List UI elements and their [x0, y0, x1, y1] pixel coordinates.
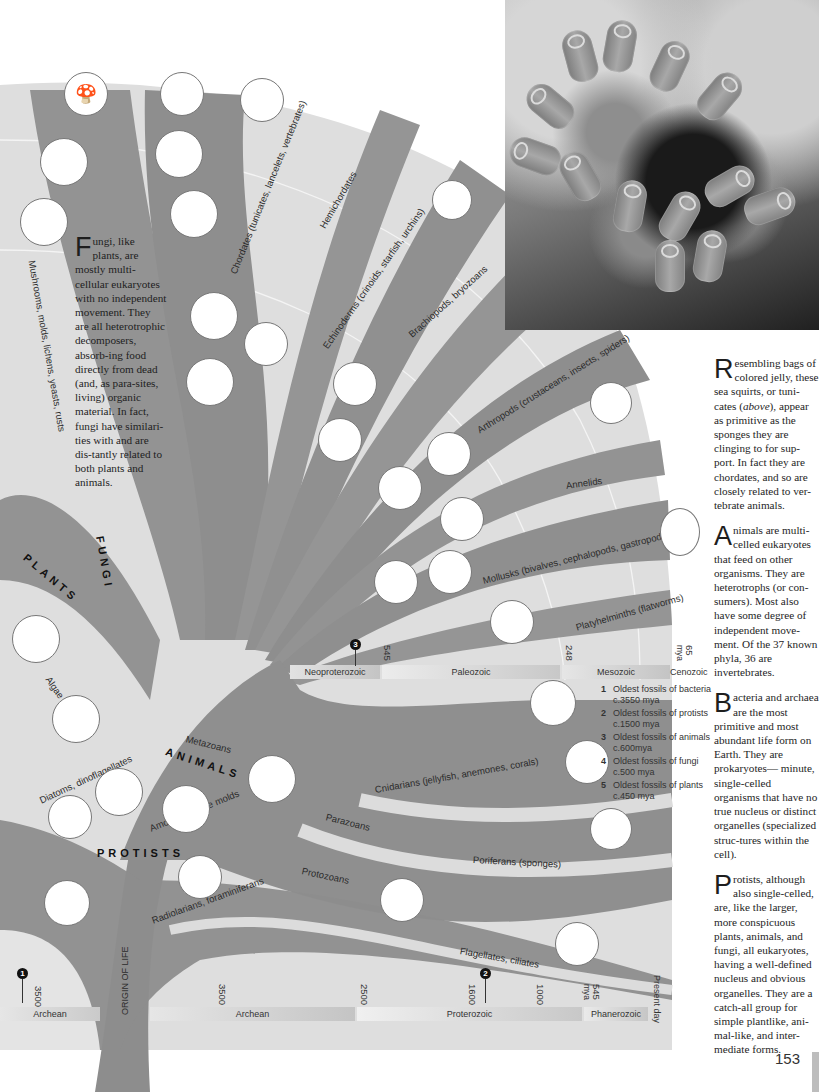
legend-item: 4Oldest fossils of fungi c.500 mya: [601, 756, 721, 777]
fish-illustration: [170, 190, 218, 238]
page-edge-tab: [812, 1052, 819, 1092]
squid-illustration: [660, 508, 700, 556]
tick-mya-upper: mya: [675, 645, 685, 661]
whale-illustration: [240, 78, 284, 122]
nautilus-illustration: [428, 550, 472, 594]
jellyfish-illustration: [530, 680, 576, 726]
marker-3-line: [355, 650, 356, 666]
era-paleozoic: Paleozoic: [382, 665, 560, 679]
earthworm-illustration: [440, 497, 484, 541]
right-column: Resembling bags of colored jelly, these …: [714, 356, 819, 1057]
worm-illustration: [244, 322, 288, 366]
mold-illustration: [40, 138, 88, 186]
tick-mya-lower: mya: [582, 984, 592, 1000]
tick-2500: 2500: [359, 984, 370, 1005]
legend-item: 3Oldest fossils of animals c.600mya: [601, 732, 721, 753]
kingdom-protists-label: PROTISTS: [97, 847, 184, 859]
tunicate-photo: [505, 0, 819, 330]
animals-paragraph: Animals are multi-celled eukaryotes that…: [714, 523, 819, 679]
trilobite-illustration: [378, 466, 422, 510]
tick-1000: 1000: [535, 984, 546, 1005]
marker-3: 3: [350, 639, 361, 650]
lancelet-illustration: [190, 292, 238, 340]
frog-illustration: [155, 130, 203, 178]
tick-3500: 3500: [217, 984, 228, 1005]
tick-3500-left: 3500: [33, 986, 44, 1007]
legend-item: 2Oldest fossils of protists c.1500 mya: [601, 708, 721, 729]
era-mesozoic: Mesozoic: [562, 665, 670, 679]
clam-illustration: [374, 560, 418, 604]
tunicate-illustration: [186, 358, 234, 406]
ediacaran-illustration: [248, 755, 296, 803]
legend-item: 5Oldest fossils of plants c.450 mya: [601, 780, 721, 801]
marker-2-line: [485, 979, 486, 1003]
tick-248: 248: [564, 645, 575, 661]
crab-illustration: [590, 382, 632, 424]
protists-paragraph: Protists, although also single-celled, a…: [714, 872, 819, 1057]
flatworm-illustration: [490, 600, 534, 644]
tick-65: 65: [684, 645, 695, 656]
era-archean-2: Archean: [150, 1007, 355, 1021]
spirogyra-illustration: [52, 695, 100, 743]
brachiopod-illustration: [318, 418, 362, 462]
fungi-paragraph: Fungi, like plants, are mostly multi-cel…: [75, 234, 167, 490]
tunicates-paragraph: Resembling bags of colored jelly, these …: [714, 356, 819, 512]
origin-of-life-label: ORIGIN OF LIFE: [120, 946, 130, 1015]
centipede-illustration: [427, 432, 471, 476]
dinoflagellate-illustration: [95, 768, 143, 816]
ciliate-illustration: [555, 922, 599, 966]
flagellate-illustration: [380, 878, 424, 922]
era-archean-1: Archean: [0, 1007, 100, 1021]
bryozoan-illustration: [333, 362, 377, 406]
radiolarian-illustration: [178, 855, 222, 899]
lichen-illustration: [20, 198, 68, 246]
green-algae-illustration: [12, 615, 60, 663]
fossil-legend: 1Oldest fossils of bacteria c.3550 mya 2…: [601, 684, 721, 804]
mushroom-illustration: 🍄: [64, 72, 108, 116]
bacteria-paragraph: Bacteria and archaea are the most primit…: [714, 690, 819, 860]
amoeba-illustration: [162, 785, 210, 833]
era-proterozoic: Proterozoic: [357, 1007, 582, 1021]
tick-545-upper: 545: [382, 645, 393, 661]
era-neoproterozoic: Neoproterozoic: [290, 665, 380, 679]
legend-item: 1Oldest fossils of bacteria c.3550 mya: [601, 684, 721, 705]
turtle-illustration: [160, 72, 204, 116]
page-number: 153: [775, 1050, 800, 1067]
tick-545-lower: 545: [591, 984, 602, 1000]
era-phanerozoic: Phanerozoic: [584, 1007, 648, 1021]
tick-1600: 1600: [467, 984, 478, 1005]
diatom-illustration: [48, 795, 92, 839]
marker-1: 1: [17, 968, 28, 979]
present-day-label: Present day: [652, 975, 662, 1023]
starfish-illustration: [432, 180, 472, 220]
marker-1-line: [22, 979, 23, 1003]
era-cenozoic: Cenozoic: [670, 665, 710, 679]
euglena-illustration: [44, 880, 90, 926]
sponge-illustration: [590, 808, 632, 850]
marker-2: 2: [480, 968, 491, 979]
